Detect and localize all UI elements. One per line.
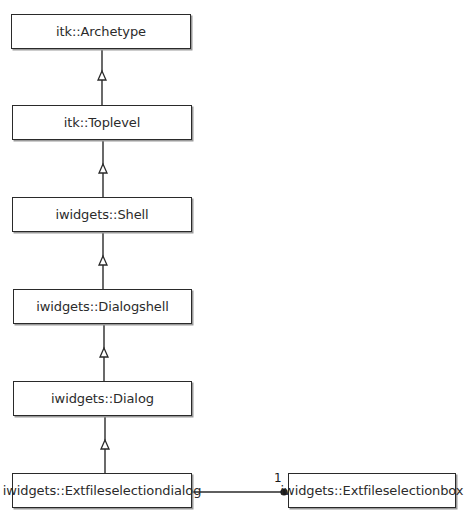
generalization-shell-toplevel — [99, 140, 107, 197]
connectors — [0, 0, 466, 517]
class-box-dialog[interactable]: iwidgets::Dialog — [13, 381, 192, 416]
hollow-triangle-arrow-icon — [99, 164, 107, 173]
multiplicity-label: 1 — [274, 471, 282, 485]
class-name: iwidgets::Dialogshell — [36, 299, 169, 314]
generalization-toplevel-archetype — [98, 48, 106, 105]
hollow-triangle-arrow-icon — [101, 440, 109, 449]
generalization-extfileselectiondialog-dialog — [101, 416, 109, 473]
class-name: itk::Archetype — [56, 24, 146, 39]
class-name: itk::Toplevel — [64, 115, 141, 130]
hollow-triangle-arrow-icon — [99, 256, 107, 265]
hollow-triangle-arrow-icon — [98, 71, 106, 80]
class-box-toplevel[interactable]: itk::Toplevel — [12, 105, 192, 140]
uml-class-diagram: itk::Archetype itk::Toplevel iwidgets::S… — [0, 0, 466, 517]
class-name: iwidgets::Shell — [55, 207, 148, 222]
class-box-extfileselectionbox[interactable]: iwidgets::Extfileselectionbox — [288, 473, 456, 508]
class-name: iwidgets::Extfileselectionbox — [281, 483, 464, 498]
class-box-extfileselectiondialog[interactable]: iwidgets::Extfileselectiondialog — [12, 473, 192, 508]
class-name: iwidgets::Dialog — [51, 391, 154, 406]
generalization-dialog-dialogshell — [100, 324, 108, 381]
generalization-dialogshell-shell — [99, 232, 107, 289]
class-box-shell[interactable]: iwidgets::Shell — [12, 197, 192, 232]
composition-extfileselectiondialog-extfileselectionbox — [192, 488, 288, 495]
hollow-triangle-arrow-icon — [100, 348, 108, 357]
class-box-archetype[interactable]: itk::Archetype — [11, 14, 191, 49]
class-name: iwidgets::Extfileselectiondialog — [3, 483, 202, 498]
class-box-dialogshell[interactable]: iwidgets::Dialogshell — [13, 289, 192, 324]
